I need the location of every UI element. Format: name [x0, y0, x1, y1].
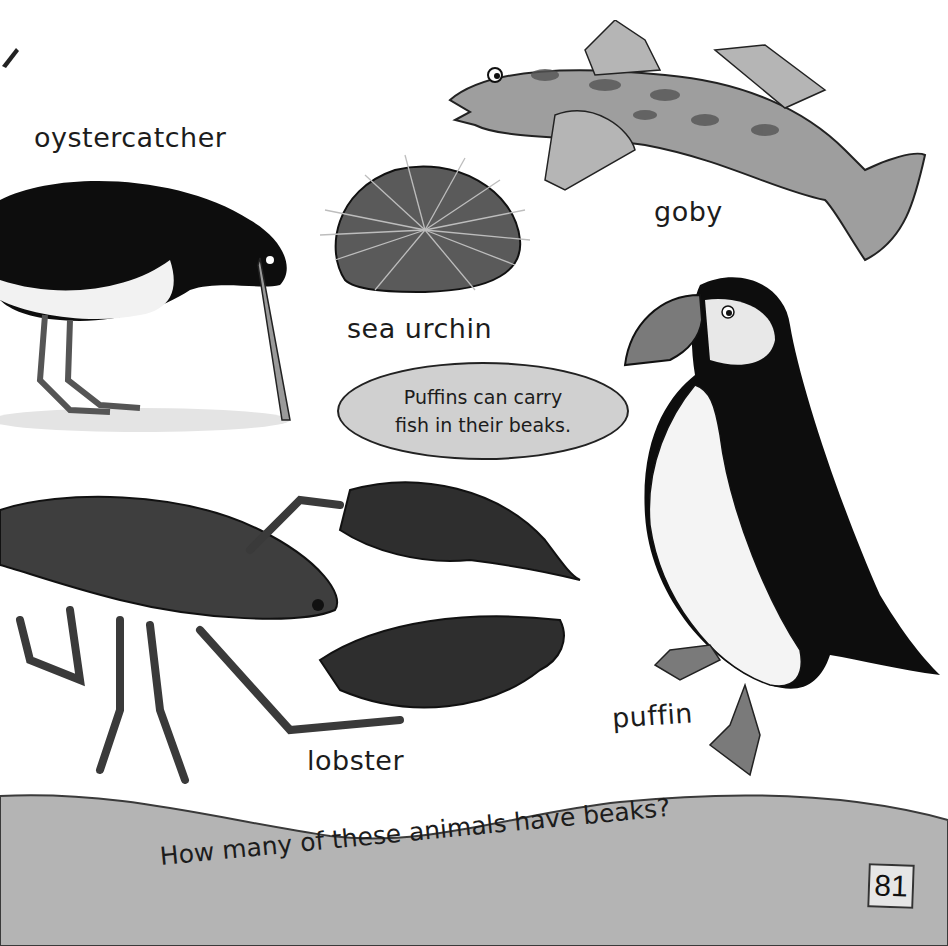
puffin-label: puffin: [611, 697, 694, 734]
lobster-illustration: [0, 450, 600, 790]
fact-bubble: Puffins can carry fish in their beaks.: [337, 362, 629, 460]
goby-illustration: [445, 20, 935, 270]
sea-urchin-label: sea urchin: [347, 313, 492, 344]
oystercatcher-label: oystercatcher: [34, 122, 226, 153]
lobster-label: lobster: [307, 745, 404, 776]
fact-line-1: Puffins can carry: [404, 383, 562, 411]
page-number: 81: [867, 863, 915, 909]
goby-label: goby: [654, 196, 723, 227]
pencil-mark-icon: [0, 44, 20, 68]
fact-line-2: fish in their beaks.: [395, 411, 571, 439]
oystercatcher-illustration: [0, 150, 330, 450]
